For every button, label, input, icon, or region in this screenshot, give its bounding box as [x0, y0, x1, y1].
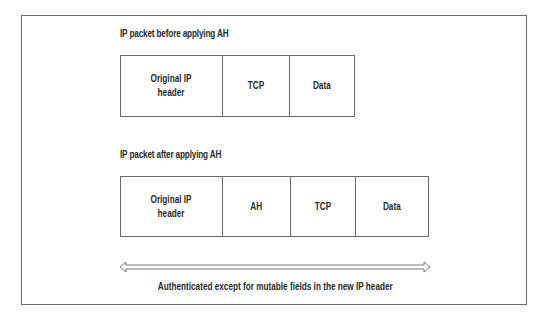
cell-label: TCP [248, 79, 264, 93]
cell-label: Original IP header [151, 193, 192, 221]
before-packet-title: IP packet before applying AH [120, 28, 228, 39]
after-ah-cell: AH [222, 177, 290, 236]
after-tcp-cell: TCP [290, 177, 355, 236]
cell-label: Data [313, 79, 331, 93]
before-packet-row: Original IP header TCP Data [120, 55, 355, 117]
after-packet-row: Original IP header AH TCP Data [120, 176, 429, 237]
before-data-cell: Data [289, 56, 354, 116]
cell-label: AH [251, 200, 263, 214]
after-data-cell: Data [355, 177, 428, 236]
before-tcp-cell: TCP [222, 56, 289, 116]
before-original-ip-header-cell: Original IP header [121, 56, 222, 116]
after-packet-title: IP packet after applying AH [120, 149, 221, 160]
cell-label: Data [383, 200, 401, 214]
after-original-ip-header-cell: Original IP header [121, 177, 222, 236]
authentication-caption: Authenticated except for mutable fields … [0, 281, 550, 292]
caption-text: Authenticated except for mutable fields … [158, 281, 393, 292]
cell-label: TCP [315, 200, 331, 214]
cell-label: Original IP header [151, 72, 192, 100]
double-arrow-icon [119, 261, 431, 273]
